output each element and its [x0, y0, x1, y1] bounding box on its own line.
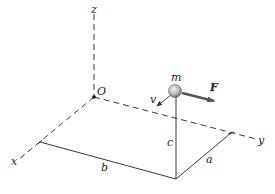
x-axis [18, 97, 94, 160]
force-arrow [182, 93, 214, 101]
y-axis-label: y [257, 134, 265, 147]
dimension-b-label: b [101, 161, 108, 174]
force-label: F [209, 81, 219, 94]
origin-label: O [97, 85, 106, 98]
dimension-c-label: c [167, 136, 173, 149]
particle-mass [169, 85, 182, 98]
dimension-a-line [176, 133, 231, 179]
velocity-label: v [150, 93, 157, 106]
mass-label: m [171, 71, 181, 84]
dimension-a-label: a [206, 153, 213, 166]
z-axis-label: z [90, 3, 97, 16]
dynamics-diagram: z O x y m F v b c a [0, 0, 275, 194]
velocity-arrow [157, 95, 171, 106]
x-axis-label: x [11, 155, 18, 168]
origin-point [92, 95, 96, 99]
